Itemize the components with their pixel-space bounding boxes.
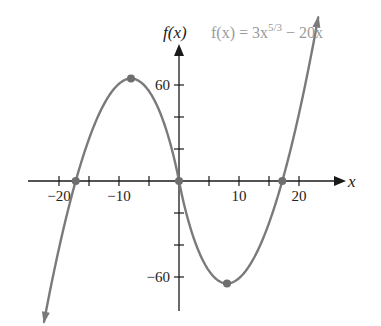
function-equation-label: f(x) = 3x5/3 − 20x <box>211 21 323 42</box>
y-tick-label: −60 <box>147 269 170 285</box>
function-curve <box>44 18 318 322</box>
marked-point <box>127 75 135 83</box>
function-graph: −20−10102060−60 x f(x) f(x) = 3x5/3 − 20… <box>0 0 381 326</box>
y-axis-label: f(x) <box>163 23 187 42</box>
equation-lhs: f(x) = 3x <box>211 24 268 42</box>
marked-point <box>278 177 286 185</box>
x-tick-label: 10 <box>232 188 247 204</box>
equation-rhs: − 20x <box>282 24 323 41</box>
y-axis-arrow-icon <box>174 44 184 56</box>
equation-exponent: 5/3 <box>268 21 283 33</box>
x-tick-label: −10 <box>107 188 130 204</box>
marked-point <box>175 177 183 185</box>
marked-point <box>72 177 80 185</box>
y-tick-label: 60 <box>155 77 170 93</box>
x-axis-arrow-icon <box>334 176 346 186</box>
marked-point <box>223 279 231 287</box>
x-axis-label: x <box>347 172 356 191</box>
x-tick-label: −20 <box>47 188 70 204</box>
x-tick-label: 20 <box>292 188 307 204</box>
